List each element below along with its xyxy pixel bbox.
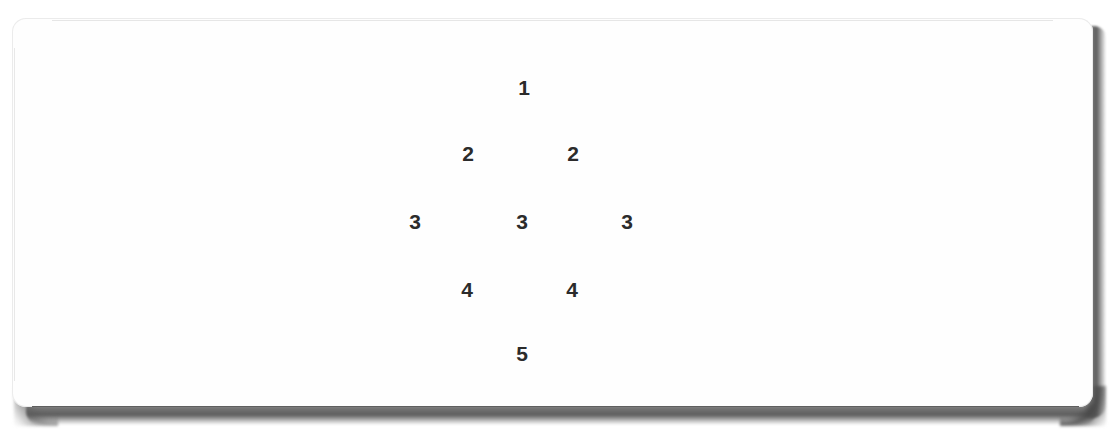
diagram-digit: 1 <box>518 77 530 98</box>
digit-diamond-diagram: 122333445 <box>0 0 1119 442</box>
diagram-digit: 2 <box>462 143 474 164</box>
diagram-digit: 4 <box>461 279 473 300</box>
diagram-digit: 5 <box>516 343 528 364</box>
diagram-digit: 2 <box>567 143 579 164</box>
diagram-digit: 4 <box>566 279 578 300</box>
diagram-digit: 3 <box>621 211 633 232</box>
diagram-digit: 3 <box>409 211 421 232</box>
scan-page-canvas: 122333445 <box>0 0 1119 442</box>
diagram-digit: 3 <box>516 211 528 232</box>
